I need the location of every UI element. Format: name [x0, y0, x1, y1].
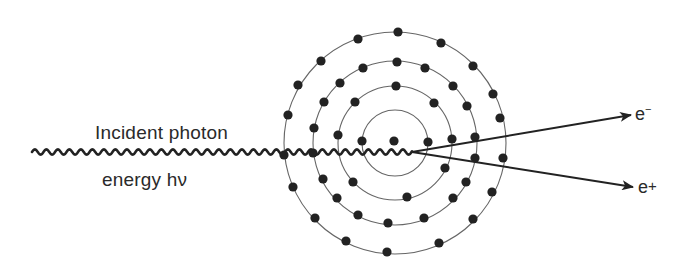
electron-dot-second	[319, 97, 328, 106]
electron-dot-outer	[382, 247, 391, 256]
electron-dot-outer	[283, 110, 292, 119]
electron-dot-outer	[293, 80, 302, 89]
incident-photon-wave	[32, 149, 412, 154]
positron-label: e+	[638, 178, 657, 196]
electron-dot-third	[402, 192, 411, 201]
electron-dot-third	[447, 134, 456, 143]
electron-dot-second	[462, 101, 471, 110]
electron-dot-second	[335, 78, 344, 87]
electron-dot-outer	[341, 236, 350, 245]
electron-dot-third	[348, 177, 357, 186]
electron-dot-outer	[468, 214, 477, 223]
nucleus	[389, 136, 398, 145]
electron-dot-outer	[487, 187, 496, 196]
electron-dot-outer	[495, 113, 504, 122]
electron-dot-outer	[288, 182, 297, 191]
positron-symbol: e	[638, 177, 648, 197]
electron-dot-second	[419, 213, 428, 222]
electron-dot-inner	[423, 137, 432, 146]
electron-label: e−	[635, 104, 651, 123]
positron-charge: +	[648, 177, 657, 194]
electron-dot-second	[309, 123, 318, 132]
electron-dot-second	[461, 177, 470, 186]
electron-dot-outer	[488, 89, 497, 98]
electron-dot-outer	[434, 238, 443, 247]
electron-dot-third	[440, 163, 449, 172]
electron-dot-outer	[498, 153, 507, 162]
electron-dot-third	[333, 130, 342, 139]
electron-dot-outer	[310, 213, 319, 222]
electron-dot-second	[318, 174, 327, 183]
electron-dot-outer	[436, 38, 445, 47]
electron-dot-third	[391, 81, 400, 90]
electron-dot-second	[358, 63, 367, 72]
electron-dot-second	[448, 193, 457, 202]
electron-dot-second	[332, 193, 341, 202]
electron-dot-second	[420, 63, 429, 72]
electron-charge: −	[645, 103, 651, 115]
electron-dot-outer	[316, 56, 325, 65]
electron-dot-outer	[393, 27, 402, 36]
nucleus-dot	[389, 136, 398, 145]
electron-dot-outer	[468, 61, 477, 70]
incident-photon-label: Incident photon	[95, 123, 228, 142]
electron-track-arrow	[412, 115, 631, 152]
electron-dot-third	[350, 97, 359, 106]
electron-dot-third	[429, 98, 438, 107]
electron-symbol: e	[635, 104, 645, 124]
electron-dot-inner	[357, 136, 366, 145]
electron-dot-second	[383, 218, 392, 227]
photon-energy-label: energy hν	[102, 170, 187, 189]
particle-tracks	[412, 115, 633, 187]
electron-dot-second	[448, 81, 457, 90]
electron-dot-second	[392, 57, 401, 66]
electron-dot-second	[353, 210, 362, 219]
electron-dot-outer	[353, 34, 362, 43]
